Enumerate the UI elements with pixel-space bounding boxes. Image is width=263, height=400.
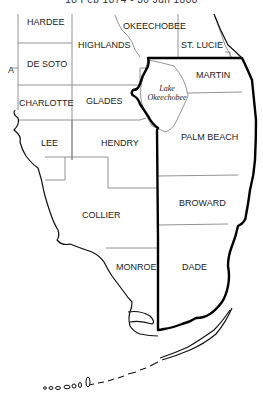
lake-okeechobee-label: Lake Okeechobee [142, 84, 192, 102]
county-label-highlands: HIGHLANDS [78, 40, 131, 50]
county-label-okeechobee: OKEECHOBEE [123, 21, 186, 31]
county-label-monroe: MONROE [116, 262, 157, 272]
cape-sable [128, 312, 154, 325]
lake-label-line2: Okeechobee [142, 93, 192, 102]
county-label-dade: DADE [182, 262, 207, 272]
county-label-collier: COLLIER [82, 210, 121, 220]
county-label-palm-beach: PALM BEACH [181, 132, 238, 142]
county-label-hardee: HARDEE [27, 17, 65, 27]
florida-keys [44, 308, 233, 390]
county-label-partial-a: A [8, 65, 14, 75]
county-label-broward: BROWARD [179, 198, 226, 208]
county-label-glades: GLADES [86, 96, 123, 106]
county-label-charlotte: CHARLOTTE [19, 98, 74, 108]
county-label-de-soto: DE SOTO [27, 59, 67, 69]
county-label-lee: LEE [41, 138, 58, 148]
county-label-st-lucie: ST. LUCIE [181, 40, 223, 50]
county-label-martin: MARTIN [196, 70, 230, 80]
county-label-hendry: HENDRY [101, 138, 139, 148]
lake-label-line1: Lake [142, 84, 192, 93]
